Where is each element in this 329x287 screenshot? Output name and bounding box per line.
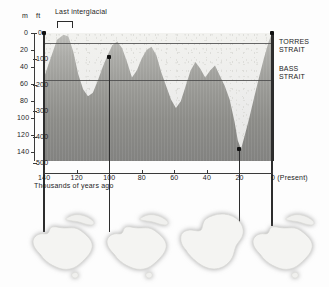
tick-label-m-20: 20 <box>20 46 28 54</box>
tick-label-m-80: 80 <box>20 97 28 105</box>
tick-ft-0 <box>33 33 37 34</box>
axis-unit-m: m <box>22 12 28 20</box>
tick-label-x-80: 80 <box>138 174 146 182</box>
brace-bar <box>57 21 73 22</box>
marker-leader-100ka <box>109 57 110 232</box>
tick-label-m-100: 100 <box>17 114 29 122</box>
new-guinea-shape <box>286 215 315 225</box>
last-interglacial-label: Last interglacial <box>55 8 107 16</box>
tick-label-x-40: 40 <box>203 174 211 182</box>
tick-m-20 <box>31 50 35 51</box>
tasmania-shape <box>146 273 153 279</box>
tick-m-80 <box>31 101 35 102</box>
tick-label-ft-300: 300 <box>36 107 48 115</box>
tick-label-ft-500: 500 <box>36 159 48 167</box>
australia-shape <box>253 227 312 270</box>
gridline-bass-strait <box>44 80 272 81</box>
marker-leader-0ka <box>271 33 272 226</box>
torres-strait-label-line1: TORRES <box>279 38 309 46</box>
brace-arm-right <box>72 21 73 28</box>
marker-dot-100ka <box>107 55 111 59</box>
tick-label-x-60: 60 <box>170 174 178 182</box>
tick-label-ft-400: 400 <box>36 133 48 141</box>
marker-dot-20ka <box>237 147 241 151</box>
tick-label-x-100: 100 <box>103 174 115 182</box>
bass-strait-label-line2: STRAIT <box>279 73 305 81</box>
axis-unit-ft: ft <box>36 12 40 20</box>
axis-meters <box>34 33 35 161</box>
bass-strait-label-line1: BASS <box>279 65 298 73</box>
brace-arm-left <box>57 21 58 28</box>
tick-label-m-40: 40 <box>20 63 28 71</box>
tick-label-x-120: 120 <box>71 174 83 182</box>
tick-label-x-140: 140 <box>38 174 50 182</box>
new-guinea-shape <box>140 215 169 225</box>
tick-label-m-120: 120 <box>17 131 29 139</box>
sahul-landmass-shape <box>181 214 244 269</box>
tasmania-shape <box>292 273 299 279</box>
tick-label-m-60: 60 <box>20 80 28 88</box>
tasmania-shape <box>72 273 79 279</box>
new-guinea-shape <box>66 215 95 225</box>
gridline-torres-strait <box>44 43 272 44</box>
australia-shape <box>33 227 92 270</box>
tick-label-ft-200: 200 <box>36 81 48 89</box>
last-interglacial-brace <box>57 21 73 29</box>
tick-m-40 <box>31 67 35 68</box>
tick-m-140 <box>31 152 35 153</box>
marker-dot-0ka <box>270 31 274 35</box>
australia-map-present <box>240 208 326 282</box>
tick-label-ft-100: 100 <box>36 55 48 63</box>
torres-strait-label-line2: STRAIT <box>279 46 305 54</box>
tick-label-x-20: 20 <box>235 174 243 182</box>
tick-label-x-0: 0 (Present) <box>271 174 308 182</box>
tick-label-ft-0: 0 <box>38 29 42 37</box>
tick-m-100 <box>31 118 35 119</box>
australia-shape <box>107 227 166 270</box>
marker-dot-140ka <box>42 31 46 35</box>
tick-label-m-0: 0 <box>24 29 28 37</box>
tick-label-m-140: 140 <box>17 148 29 156</box>
sea-level-figure: 020406080100120140 0100200300400500 1401… <box>0 0 329 287</box>
plot-area <box>44 33 272 161</box>
axis-x-label: Thousands of years ago <box>34 182 114 190</box>
